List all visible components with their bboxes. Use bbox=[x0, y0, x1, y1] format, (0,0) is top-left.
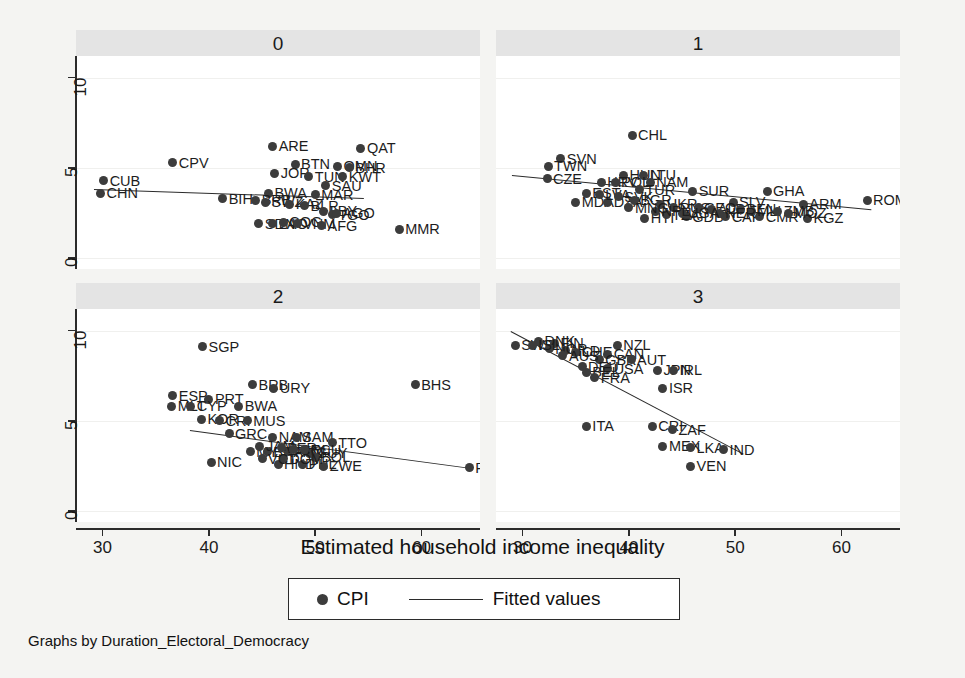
data-point bbox=[590, 373, 599, 382]
data-point-label: ISR bbox=[669, 381, 693, 396]
data-point-label: IRL bbox=[680, 363, 703, 378]
data-point-label: VEN bbox=[697, 459, 727, 474]
data-point bbox=[168, 158, 177, 167]
data-point bbox=[465, 463, 474, 472]
data-point bbox=[99, 176, 108, 185]
data-point-label: SUR bbox=[699, 184, 730, 199]
data-point-label: NER bbox=[725, 206, 756, 221]
data-point bbox=[285, 200, 294, 209]
panel-3: 3 SWEFINDNKNZLNLDNORCHECANGBRAUTDEUUSABE… bbox=[496, 283, 900, 522]
data-point-label: ROM bbox=[873, 193, 900, 208]
data-point bbox=[628, 131, 637, 140]
panel-1: 1 CHLSVNTWNCZEHUNLTUHRVPOLNAMTURSURGHAMD… bbox=[496, 30, 900, 269]
data-point bbox=[168, 391, 177, 400]
data-point-label: ARE bbox=[279, 139, 309, 154]
legend-label-fitted-values: Fitted values bbox=[493, 588, 601, 610]
data-point bbox=[395, 225, 404, 234]
y-axis-tick-label: 10 bbox=[72, 77, 89, 96]
data-point bbox=[658, 442, 667, 451]
gridline bbox=[76, 258, 480, 259]
data-point-label: CZE bbox=[553, 172, 582, 187]
data-point bbox=[225, 429, 234, 438]
panel-strip-3: 3 bbox=[496, 283, 900, 309]
data-point bbox=[270, 169, 279, 178]
data-point-label: ZAF bbox=[678, 423, 705, 438]
gridline bbox=[76, 78, 480, 79]
panel-strip-0: 0 bbox=[76, 30, 480, 56]
data-point-label: BIH bbox=[229, 192, 253, 207]
data-point bbox=[218, 194, 227, 203]
data-point bbox=[167, 402, 176, 411]
panel-2: 2 SGPBRBURYBHSESPPRTMLTCYPBWAKORCRIMUSGR… bbox=[76, 283, 480, 522]
data-point bbox=[254, 219, 263, 228]
panel-strip-2: 2 bbox=[76, 283, 480, 309]
y-axis-tick-label: 0 bbox=[63, 258, 80, 267]
data-point-label: GRC bbox=[235, 427, 267, 442]
data-point-label: UGA bbox=[688, 206, 719, 221]
data-point-label: CPV bbox=[179, 156, 209, 171]
panel-strip-label-0: 0 bbox=[273, 34, 284, 53]
data-point bbox=[863, 196, 872, 205]
y-axis-tick-label: 10 bbox=[72, 330, 89, 349]
data-point-label: NIC bbox=[217, 455, 242, 470]
data-point bbox=[784, 209, 793, 218]
data-point bbox=[293, 219, 302, 228]
panel-strip-1: 1 bbox=[496, 30, 900, 56]
y-axis-tick-label: 5 bbox=[63, 420, 80, 429]
gridline bbox=[76, 331, 480, 332]
legend-entry-cpi: CPI bbox=[289, 588, 369, 610]
legend: CPI Fitted values bbox=[288, 578, 680, 620]
panel-strip-label-3: 3 bbox=[693, 287, 704, 306]
data-point bbox=[658, 384, 667, 393]
x-axis-line bbox=[76, 528, 480, 530]
data-point-label: CHN bbox=[106, 186, 137, 201]
data-point bbox=[624, 203, 633, 212]
data-point bbox=[234, 402, 243, 411]
gridline bbox=[496, 78, 900, 79]
data-point-label: BWA bbox=[245, 399, 278, 414]
x-axis-line bbox=[496, 528, 900, 530]
data-point-label: PRY bbox=[475, 461, 480, 476]
legend-marker-dot-icon bbox=[317, 594, 328, 605]
data-point bbox=[648, 422, 657, 431]
data-point bbox=[411, 380, 420, 389]
data-point bbox=[688, 187, 697, 196]
gridline bbox=[496, 331, 900, 332]
data-point-label: BOL bbox=[321, 450, 350, 465]
chart-canvas: 0 CUBCHNCPVAREQATBTNOMNBHRJORTUNKWTSAUMA… bbox=[0, 0, 965, 678]
plot-area-2: SGPBRBURYBHSESPPRTMLTCYPBWAKORCRIMUSGRCN… bbox=[76, 309, 480, 522]
x-axis-title: Estimated household income inequality bbox=[0, 535, 965, 559]
y-axis-tick-label: 5 bbox=[63, 167, 80, 176]
y-axis-tick-label: 0 bbox=[63, 511, 80, 520]
data-point bbox=[686, 462, 695, 471]
chart-caption: Graphs by Duration_Electoral_Democracy bbox=[28, 632, 309, 649]
data-point bbox=[653, 366, 662, 375]
data-point-label: AUS bbox=[569, 349, 599, 364]
gridline bbox=[76, 511, 480, 512]
data-point bbox=[511, 341, 520, 350]
data-point bbox=[258, 454, 267, 463]
data-point bbox=[582, 189, 591, 198]
data-point bbox=[669, 366, 678, 375]
data-point bbox=[96, 189, 105, 198]
data-point-label: BHS bbox=[421, 378, 451, 393]
data-point-label: MNG bbox=[635, 201, 669, 216]
data-point-label: VCT bbox=[268, 452, 297, 467]
plot-area-1: CHLSVNTWNCZEHUNLTUHRVPOLNAMTURSURGHAMDAD… bbox=[496, 56, 900, 269]
data-point-label: ISL bbox=[538, 338, 560, 353]
legend-marker-line-icon bbox=[409, 599, 483, 600]
data-point bbox=[251, 196, 260, 205]
legend-label-cpi: CPI bbox=[337, 588, 369, 610]
data-point bbox=[304, 172, 313, 181]
data-point bbox=[719, 445, 728, 454]
data-point-label: IND bbox=[730, 443, 755, 458]
data-point bbox=[528, 341, 537, 350]
data-point-label: AFG bbox=[328, 219, 358, 234]
data-point-label: ITA bbox=[592, 419, 613, 434]
data-point-label: URY bbox=[280, 381, 310, 396]
data-point bbox=[268, 142, 277, 151]
data-point-label: QAT bbox=[367, 141, 396, 156]
data-point bbox=[356, 144, 365, 153]
data-point bbox=[544, 162, 553, 171]
gridline bbox=[496, 511, 900, 512]
